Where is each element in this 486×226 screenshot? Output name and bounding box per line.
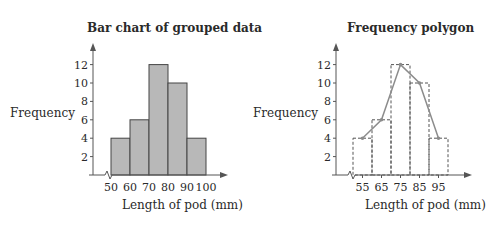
y-tick-label: 2 [81,151,88,164]
x-tick-label: 75 [394,181,408,194]
dashed-bar [391,65,410,175]
data-point [437,136,441,140]
dashed-bar [353,138,372,175]
y-tick-label: 8 [81,95,88,108]
x-tick-label: 95 [432,181,446,194]
y-tick-label: 12 [317,59,331,72]
y-tick-label: 6 [324,114,331,127]
dashed-bar [410,83,429,175]
x-tick-label: 50 [104,181,118,194]
bar [149,65,168,175]
x-tick-label: 65 [375,181,389,194]
y-tick-label: 12 [74,59,88,72]
y-tick-label: 4 [324,132,331,145]
y-tick-label: 10 [317,77,331,90]
y-tick-label: 10 [74,77,88,90]
x-tick-label: 80 [161,181,175,194]
dashed-bars [353,65,448,175]
x-tick-label: 90 [180,181,194,194]
data-point [399,63,403,67]
frequency-polygon-chart: Frequency polygon Frequency Length of po… [240,0,473,226]
bar-chart-grouped-data: Bar chart of grouped data Frequency Leng… [0,0,240,226]
frequency-polygon-plot: 246810125565758595 [240,0,473,226]
dashed-bar [429,138,448,175]
x-axis-arrow-icon [220,172,228,178]
dashed-bar [372,120,391,175]
data-point [361,136,365,140]
polygon-line [363,65,439,139]
axes: 24681012 [317,43,472,179]
x-tick-label: 60 [123,181,137,194]
x-axis-arrow-icon [464,172,472,178]
bar [168,83,187,175]
bars [111,65,206,175]
y-tick-label: 8 [324,95,331,108]
data-point [380,118,384,122]
bar-chart-plot: 246810125060708090100 [0,0,240,226]
bar [111,138,130,175]
x-tick-label: 100 [196,181,217,194]
x-tick-label: 55 [356,181,370,194]
y-tick-label: 6 [81,114,88,127]
bar [187,138,206,175]
data-point [418,81,422,85]
bar [130,120,149,175]
x-tick-label: 85 [413,181,427,194]
y-tick-label: 4 [81,132,88,145]
y-axis-arrow-icon [333,43,339,51]
x-tick-label: 70 [142,181,156,194]
y-axis-arrow-icon [90,43,96,51]
y-tick-label: 2 [324,151,331,164]
x-axis-line [332,171,466,179]
